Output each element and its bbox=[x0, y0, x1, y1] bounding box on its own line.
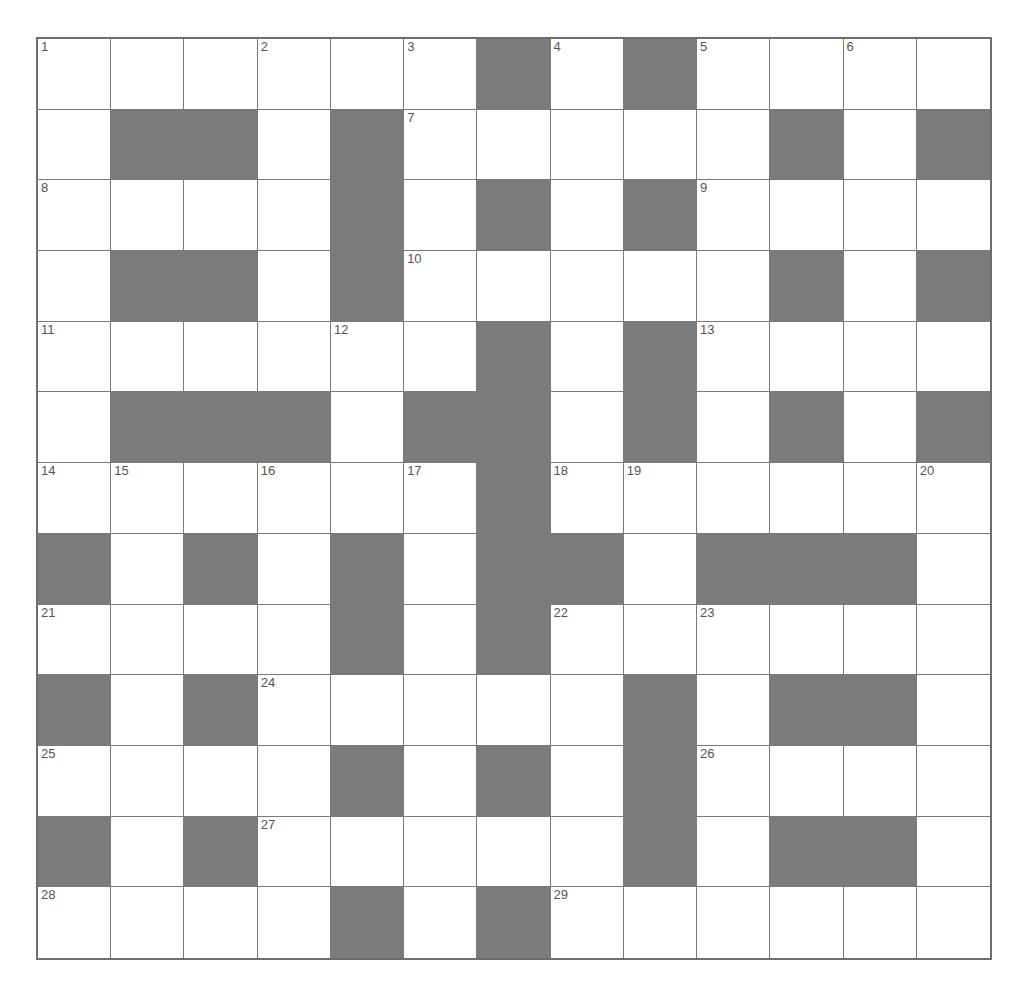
grid-cell[interactable] bbox=[551, 817, 624, 888]
grid-cell[interactable] bbox=[184, 463, 257, 534]
grid-cell[interactable]: 25 bbox=[38, 746, 111, 817]
grid-cell[interactable] bbox=[551, 110, 624, 181]
grid-cell[interactable]: 6 bbox=[844, 39, 917, 110]
grid-cell[interactable] bbox=[38, 392, 111, 463]
grid-cell[interactable] bbox=[404, 605, 477, 676]
grid-cell[interactable] bbox=[111, 534, 184, 605]
grid-cell[interactable] bbox=[184, 180, 257, 251]
grid-cell[interactable] bbox=[551, 251, 624, 322]
grid-cell[interactable]: 23 bbox=[697, 605, 770, 676]
grid-cell[interactable] bbox=[770, 322, 843, 393]
grid-cell[interactable]: 16 bbox=[258, 463, 331, 534]
grid-cell[interactable] bbox=[331, 463, 404, 534]
grid-cell[interactable] bbox=[38, 110, 111, 181]
grid-cell[interactable] bbox=[551, 180, 624, 251]
grid-cell[interactable]: 4 bbox=[551, 39, 624, 110]
grid-cell[interactable] bbox=[624, 534, 697, 605]
grid-cell[interactable] bbox=[844, 746, 917, 817]
grid-cell[interactable]: 1 bbox=[38, 39, 111, 110]
grid-cell[interactable]: 10 bbox=[404, 251, 477, 322]
grid-cell[interactable] bbox=[184, 39, 257, 110]
grid-cell[interactable] bbox=[404, 887, 477, 958]
grid-cell[interactable] bbox=[917, 534, 990, 605]
grid-cell[interactable]: 14 bbox=[38, 463, 111, 534]
grid-cell[interactable]: 11 bbox=[38, 322, 111, 393]
grid-cell[interactable] bbox=[477, 675, 550, 746]
grid-cell[interactable]: 26 bbox=[697, 746, 770, 817]
grid-cell[interactable] bbox=[258, 887, 331, 958]
grid-cell[interactable] bbox=[770, 605, 843, 676]
grid-cell[interactable]: 28 bbox=[38, 887, 111, 958]
grid-cell[interactable] bbox=[111, 605, 184, 676]
grid-cell[interactable] bbox=[111, 39, 184, 110]
grid-cell[interactable] bbox=[844, 392, 917, 463]
grid-cell[interactable] bbox=[551, 675, 624, 746]
grid-cell[interactable] bbox=[111, 180, 184, 251]
grid-cell[interactable] bbox=[404, 817, 477, 888]
grid-cell[interactable] bbox=[477, 817, 550, 888]
grid-cell[interactable]: 13 bbox=[697, 322, 770, 393]
grid-cell[interactable] bbox=[111, 675, 184, 746]
grid-cell[interactable] bbox=[844, 251, 917, 322]
grid-cell[interactable] bbox=[697, 817, 770, 888]
grid-cell[interactable] bbox=[404, 534, 477, 605]
grid-cell[interactable]: 27 bbox=[258, 817, 331, 888]
grid-cell[interactable] bbox=[404, 180, 477, 251]
grid-cell[interactable] bbox=[551, 322, 624, 393]
grid-cell[interactable] bbox=[111, 322, 184, 393]
grid-cell[interactable] bbox=[404, 675, 477, 746]
grid-cell[interactable]: 18 bbox=[551, 463, 624, 534]
grid-cell[interactable] bbox=[477, 110, 550, 181]
grid-cell[interactable]: 12 bbox=[331, 322, 404, 393]
grid-cell[interactable] bbox=[917, 746, 990, 817]
grid-cell[interactable] bbox=[697, 392, 770, 463]
grid-cell[interactable] bbox=[917, 322, 990, 393]
grid-cell[interactable] bbox=[477, 251, 550, 322]
grid-cell[interactable] bbox=[917, 605, 990, 676]
grid-cell[interactable] bbox=[697, 110, 770, 181]
grid-cell[interactable] bbox=[258, 534, 331, 605]
grid-cell[interactable] bbox=[258, 605, 331, 676]
grid-cell[interactable] bbox=[770, 463, 843, 534]
grid-cell[interactable] bbox=[844, 887, 917, 958]
grid-cell[interactable] bbox=[258, 322, 331, 393]
grid-cell[interactable] bbox=[697, 463, 770, 534]
grid-cell[interactable] bbox=[917, 817, 990, 888]
grid-cell[interactable] bbox=[697, 251, 770, 322]
grid-cell[interactable] bbox=[331, 39, 404, 110]
grid-cell[interactable] bbox=[697, 675, 770, 746]
grid-cell[interactable] bbox=[770, 887, 843, 958]
grid-cell[interactable] bbox=[770, 746, 843, 817]
grid-cell[interactable] bbox=[404, 746, 477, 817]
grid-cell[interactable]: 5 bbox=[697, 39, 770, 110]
grid-cell[interactable]: 29 bbox=[551, 887, 624, 958]
grid-cell[interactable] bbox=[111, 887, 184, 958]
grid-cell[interactable] bbox=[258, 180, 331, 251]
grid-cell[interactable] bbox=[184, 322, 257, 393]
grid-cell[interactable]: 2 bbox=[258, 39, 331, 110]
grid-cell[interactable]: 7 bbox=[404, 110, 477, 181]
grid-cell[interactable] bbox=[844, 463, 917, 534]
grid-cell[interactable] bbox=[844, 605, 917, 676]
grid-cell[interactable] bbox=[770, 180, 843, 251]
grid-cell[interactable] bbox=[258, 110, 331, 181]
grid-cell[interactable] bbox=[917, 675, 990, 746]
grid-cell[interactable] bbox=[697, 887, 770, 958]
grid-cell[interactable] bbox=[184, 605, 257, 676]
grid-cell[interactable]: 21 bbox=[38, 605, 111, 676]
grid-cell[interactable]: 8 bbox=[38, 180, 111, 251]
grid-cell[interactable]: 22 bbox=[551, 605, 624, 676]
grid-cell[interactable]: 17 bbox=[404, 463, 477, 534]
grid-cell[interactable] bbox=[624, 110, 697, 181]
grid-cell[interactable] bbox=[184, 746, 257, 817]
grid-cell[interactable] bbox=[844, 110, 917, 181]
grid-cell[interactable] bbox=[331, 392, 404, 463]
grid-cell[interactable] bbox=[258, 251, 331, 322]
grid-cell[interactable] bbox=[624, 887, 697, 958]
grid-cell[interactable] bbox=[331, 675, 404, 746]
grid-cell[interactable]: 15 bbox=[111, 463, 184, 534]
grid-cell[interactable] bbox=[404, 322, 477, 393]
grid-cell[interactable] bbox=[111, 817, 184, 888]
grid-cell[interactable] bbox=[331, 817, 404, 888]
grid-cell[interactable] bbox=[844, 180, 917, 251]
